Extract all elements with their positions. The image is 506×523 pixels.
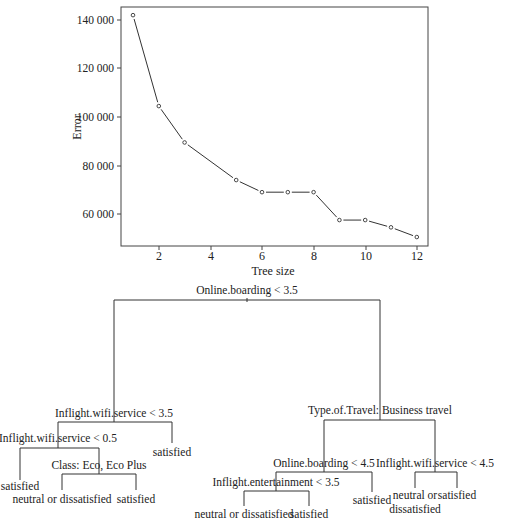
tree-leaf: satisfied bbox=[153, 446, 192, 458]
y-tick-label: 140 000 bbox=[77, 14, 115, 26]
tree-node-root: Online.boarding < 3.5 bbox=[196, 284, 298, 297]
decision-tree bbox=[20, 298, 457, 506]
data-point-marker bbox=[363, 218, 367, 222]
data-point-marker bbox=[260, 190, 264, 194]
figure: 60 000 80 000 100 000 120 000 140 000 Er… bbox=[0, 0, 506, 523]
x-tick-label: 12 bbox=[411, 249, 423, 263]
tree-leaf: neutral or dissatisfied bbox=[194, 508, 293, 520]
tree-leaf: neutral or bbox=[393, 489, 438, 501]
tree-node: Online.boarding < 4.5 bbox=[273, 457, 375, 470]
x-tick-label: 6 bbox=[259, 249, 265, 263]
data-point-marker bbox=[131, 13, 135, 17]
series-segment bbox=[188, 145, 233, 178]
series-segment bbox=[369, 221, 387, 226]
tree-node: Inflight.wifi.service < 4.5 bbox=[376, 457, 494, 470]
data-point-marker bbox=[312, 190, 316, 194]
y-tick-label: 80 000 bbox=[82, 160, 114, 172]
x-tick-label: 8 bbox=[311, 249, 317, 263]
tree-node: Inflight.wifi.service < 0.5 bbox=[0, 432, 117, 445]
series-segment bbox=[395, 229, 413, 236]
y-axis bbox=[117, 20, 121, 214]
series-segment bbox=[316, 195, 336, 217]
tree-leaf: satisfied bbox=[353, 494, 392, 506]
series-segment bbox=[161, 109, 182, 139]
tree-leaf: dissatisfied bbox=[389, 503, 441, 515]
data-point-marker bbox=[286, 190, 290, 194]
data-point-marker bbox=[234, 178, 238, 182]
y-tick-label: 60 000 bbox=[82, 208, 114, 220]
tree-leaf: neutral or dissatisfied bbox=[12, 493, 111, 505]
tree-leaf: satisfied bbox=[438, 489, 477, 501]
tree-leaf: satisfied bbox=[290, 508, 329, 520]
error-plot: 60 000 80 000 100 000 120 000 140 000 Er… bbox=[70, 7, 428, 278]
tree-node: Inflight.wifi.service < 3.5 bbox=[55, 407, 173, 420]
error-series bbox=[131, 13, 418, 238]
data-point-marker bbox=[415, 235, 419, 239]
y-axis-label: Error bbox=[70, 114, 84, 139]
tree-leaf: satisfied bbox=[117, 493, 156, 505]
x-axis-label: Tree size bbox=[251, 264, 294, 278]
tree-leaf: satisfied bbox=[1, 480, 40, 492]
series-segment bbox=[240, 182, 259, 191]
tree-node: Class: Eco, Eco Plus bbox=[51, 459, 147, 472]
data-point-marker bbox=[389, 226, 393, 230]
x-axis bbox=[159, 246, 417, 250]
tree-node: Inflight.entertainment < 3.5 bbox=[212, 476, 339, 489]
x-tick-label: 10 bbox=[360, 249, 372, 263]
y-tick-label: 120 000 bbox=[77, 62, 115, 74]
tree-node: Type.of.Travel: Business travel bbox=[308, 404, 452, 417]
plot-frame bbox=[121, 7, 428, 246]
x-tick-label: 2 bbox=[156, 249, 162, 263]
series-segment bbox=[134, 19, 158, 102]
data-point-marker bbox=[338, 218, 342, 222]
x-tick-label: 4 bbox=[208, 249, 214, 263]
data-point-marker bbox=[157, 104, 161, 108]
data-point-marker bbox=[183, 141, 187, 145]
